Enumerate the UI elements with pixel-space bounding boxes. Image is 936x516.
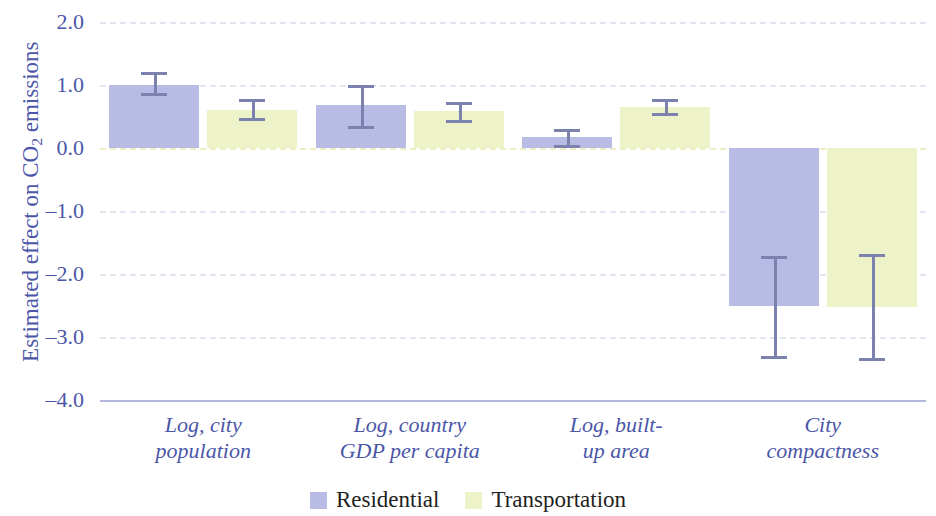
error-bar-cap [348, 126, 374, 129]
error-bar-cap [239, 99, 265, 102]
x-axis-category-label-line: City [720, 412, 927, 438]
legend-item-transportation[interactable]: Transportation [465, 487, 626, 513]
y-axis-tick-label: 1.0 [14, 72, 84, 98]
x-axis-category-label-line: GDP per capita [307, 438, 514, 464]
x-axis-line [100, 400, 926, 402]
y-axis-tick-label: 0.0 [14, 135, 84, 161]
gridline [100, 337, 926, 339]
error-bar-cap [859, 254, 885, 257]
x-axis-category-label-line: population [100, 438, 307, 464]
error-bar-cap [348, 85, 374, 88]
error-bar [154, 72, 157, 92]
error-bar-cap [446, 102, 472, 105]
gridline [100, 22, 926, 24]
y-axis-tick-label: 2.0 [14, 9, 84, 35]
x-axis-category-label-line: compactness [720, 438, 927, 464]
x-axis-category-label-line: Log, country [307, 412, 514, 438]
error-bar-cap [652, 113, 678, 116]
error-bar [361, 85, 364, 126]
error-bar [872, 254, 875, 358]
error-bar-cap [446, 120, 472, 123]
legend-label: Residential [336, 487, 439, 513]
legend-swatch-icon [465, 492, 482, 509]
error-bar-cap [141, 72, 167, 75]
gridline [100, 85, 926, 87]
legend-item-residential[interactable]: Residential [310, 487, 439, 513]
x-axis-category-label: Log, countryGDP per capita [307, 412, 514, 464]
error-bar-cap [859, 358, 885, 361]
error-bar-cap [554, 145, 580, 148]
plot-area [100, 22, 926, 400]
legend-label: Transportation [491, 487, 626, 513]
y-axis-tick-label: –4.0 [14, 387, 84, 413]
x-axis-category-label: Log, citypopulation [100, 412, 307, 464]
y-axis-tick-label: –3.0 [14, 324, 84, 350]
error-bar-cap [141, 93, 167, 96]
legend-swatch-icon [310, 492, 327, 509]
error-bar-cap [554, 129, 580, 132]
y-axis-tick-label: –1.0 [14, 198, 84, 224]
error-bar-cap [761, 256, 787, 259]
error-bar-cap [652, 99, 678, 102]
x-axis-category-label-line: Log, city [100, 412, 307, 438]
chart-legend: ResidentialTransportation [0, 487, 936, 513]
error-bar [774, 256, 777, 356]
error-bar-cap [761, 356, 787, 359]
x-axis-category-label: Citycompactness [720, 412, 927, 464]
x-axis-category-label-line: Log, built- [513, 412, 720, 438]
x-axis-category-label-line: up area [513, 438, 720, 464]
error-bar-cap [239, 118, 265, 121]
chart-figure: Estimated effect on CO2 emissions 2.01.0… [0, 0, 936, 516]
x-axis-category-label: Log, built-up area [513, 412, 720, 464]
y-axis-tick-label: –2.0 [14, 261, 84, 287]
